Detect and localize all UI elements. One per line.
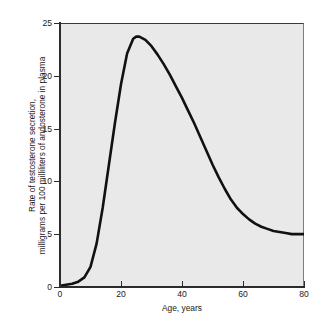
y-tick-mark xyxy=(54,23,59,24)
x-axis-line xyxy=(59,286,305,288)
y-tick-mark xyxy=(54,129,59,130)
x-tick-label: 20 xyxy=(109,289,133,299)
y-tick-mark xyxy=(54,287,59,288)
y-axis-line xyxy=(59,22,61,288)
y-tick-mark xyxy=(54,76,59,77)
x-tick-label: 60 xyxy=(231,289,255,299)
x-tick-label: 0 xyxy=(48,289,72,299)
plot-area xyxy=(60,23,304,287)
x-tick-label: 80 xyxy=(292,289,316,299)
y-tick-label: 15 xyxy=(28,124,52,134)
x-axis-title: Age, years xyxy=(60,303,304,313)
y-tick-label: 25 xyxy=(28,18,52,28)
y-axis-title-line-1: Rate of testosterone secretion, xyxy=(28,99,38,212)
y-tick-label: 10 xyxy=(28,176,52,186)
x-tick-label: 40 xyxy=(170,289,194,299)
y-tick-label: 5 xyxy=(28,229,52,239)
testosterone-curve xyxy=(60,37,304,286)
y-tick-label: 20 xyxy=(28,71,52,81)
x-tick-mark xyxy=(243,281,244,286)
y-axis-title: Rate of testosterone secretion, milligra… xyxy=(18,23,58,288)
y-tick-mark xyxy=(54,234,59,235)
chart-figure: Rate of testosterone secretion, milligra… xyxy=(0,0,321,332)
x-tick-mark xyxy=(121,281,122,286)
y-tick-mark xyxy=(54,181,59,182)
curve-svg xyxy=(60,24,304,288)
x-tick-mark xyxy=(304,281,305,286)
y-axis-title-line-2: milligrams per 100 milliliters of andost… xyxy=(38,57,48,255)
x-tick-mark xyxy=(182,281,183,286)
